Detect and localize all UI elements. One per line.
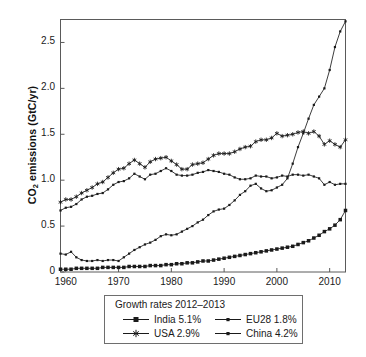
legend-marker-china-icon [215, 329, 241, 338]
data-point [191, 174, 193, 176]
data-point [297, 174, 299, 176]
data-point [175, 262, 179, 266]
legend-item-china[interactable]: China 4.2% [215, 327, 298, 339]
legend-label-china: China 4.2% [246, 328, 298, 339]
x-tick-label: 1990 [204, 276, 244, 287]
data-point [64, 267, 68, 271]
data-point [255, 183, 257, 185]
x-tick-label: 1960 [46, 276, 86, 287]
data-point [154, 239, 156, 241]
data-point [101, 266, 105, 270]
y-tick-label: 2.5 [21, 35, 55, 46]
data-point [65, 207, 67, 209]
data-point [149, 242, 151, 244]
data-point [144, 243, 146, 245]
data-point [265, 190, 267, 192]
data-point [312, 236, 316, 240]
data-point [228, 256, 232, 259]
data-point [291, 245, 295, 249]
data-point [133, 249, 135, 251]
data-point [223, 173, 225, 175]
y-tick-label: 1.5 [21, 127, 55, 138]
data-point [302, 174, 304, 176]
data-point [186, 174, 188, 176]
data-point [328, 227, 332, 231]
data-point [185, 261, 189, 265]
data-point [317, 234, 321, 238]
data-point [259, 250, 263, 254]
data-point [271, 177, 273, 179]
legend-title: Growth rates 2012–2013 [115, 299, 225, 310]
legend-item-usa[interactable]: USA 2.9% [123, 327, 200, 339]
data-point [344, 183, 346, 185]
data-point [176, 233, 178, 235]
data-point [186, 228, 188, 230]
data-point [201, 259, 205, 263]
data-point [91, 260, 93, 262]
data-point [243, 253, 247, 257]
data-point [234, 176, 236, 178]
data-point [80, 267, 84, 271]
data-point [170, 234, 172, 236]
y-tick-label: 1.0 [21, 173, 55, 184]
legend-item-eu28[interactable]: EU28 1.8% [215, 313, 297, 325]
data-point [112, 184, 114, 186]
data-point [344, 20, 346, 22]
data-point [334, 184, 336, 186]
legend-label-usa: USA 2.9% [154, 328, 200, 339]
data-point [102, 260, 104, 262]
data-point [217, 257, 221, 261]
data-point [170, 170, 172, 172]
data-point [102, 192, 104, 194]
data-point [307, 174, 309, 176]
data-point [81, 198, 83, 200]
data-point [244, 190, 246, 192]
data-point [329, 181, 331, 183]
data-point [318, 96, 320, 98]
data-point [133, 265, 137, 269]
data-point [59, 267, 63, 271]
data-point [333, 223, 337, 227]
legend-label-india: India 5.1% [154, 314, 201, 325]
data-point [207, 259, 211, 263]
data-point [59, 209, 61, 211]
data-point [122, 266, 126, 270]
data-point [181, 231, 183, 233]
data-point [275, 247, 279, 251]
data-point [249, 177, 251, 179]
data-point [70, 206, 72, 208]
data-point [127, 265, 131, 269]
data-point [160, 235, 162, 237]
data-point [191, 261, 195, 265]
data-point [181, 174, 183, 176]
data-point [249, 252, 253, 256]
data-point [323, 184, 325, 186]
data-point [212, 258, 216, 262]
data-point [86, 260, 88, 262]
data-point [297, 146, 299, 148]
data-point [128, 253, 130, 255]
data-point [244, 178, 246, 180]
data-point [107, 188, 109, 190]
data-point [207, 169, 209, 171]
data-point [139, 246, 141, 248]
data-point [164, 263, 168, 267]
data-point [207, 214, 209, 216]
legend-item-india[interactable]: India 5.1% [123, 313, 201, 325]
data-point [75, 256, 77, 258]
data-point [170, 263, 174, 267]
data-point [81, 259, 83, 261]
data-point [70, 251, 72, 253]
data-point [260, 187, 262, 189]
data-point [249, 185, 251, 187]
data-point [154, 264, 158, 268]
data-point [117, 260, 119, 262]
data-point [202, 171, 204, 173]
data-point [123, 180, 125, 182]
data-point [296, 243, 300, 247]
data-point [307, 239, 311, 243]
data-point [292, 163, 294, 165]
x-tick-label: 2010 [310, 276, 350, 287]
data-point [117, 266, 121, 270]
data-point [228, 174, 230, 176]
